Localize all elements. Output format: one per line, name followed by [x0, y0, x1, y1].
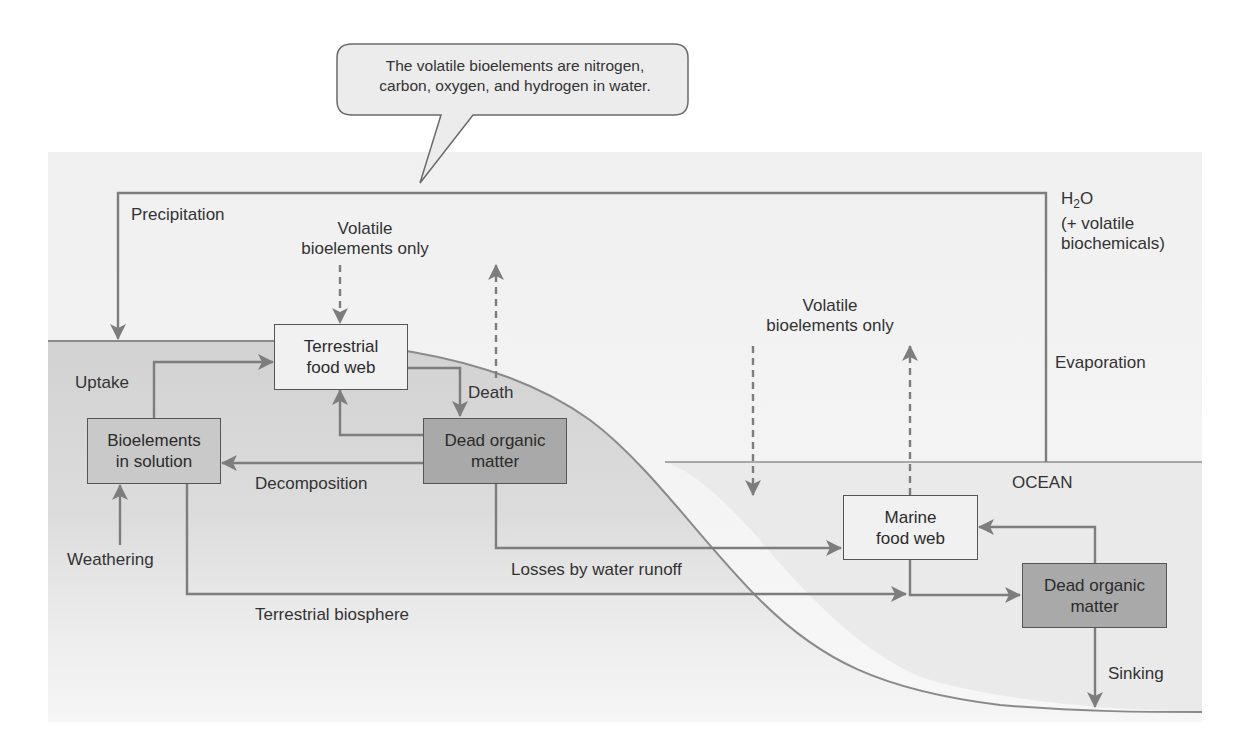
volatile-land-label: Volatile bioelements only	[280, 219, 450, 259]
dead-organic-ocean-line-2: matter	[1044, 596, 1145, 617]
precipitation-label: Precipitation	[131, 205, 225, 225]
weathering-label: Weathering	[67, 550, 154, 570]
death-label: Death	[468, 383, 513, 403]
h2o-line-2: (+ volatile	[1061, 214, 1165, 234]
h2o-formula: H2O	[1061, 189, 1165, 214]
callout-line-2: carbon, oxygen, and hydrogen in water.	[350, 76, 680, 96]
h2o-line-3: biochemicals)	[1061, 234, 1165, 254]
callout-text: The volatile bioelements are nitrogen, c…	[350, 56, 680, 96]
losses-runoff-label: Losses by water runoff	[511, 560, 682, 580]
terrestrial-food-web-line-2: food web	[304, 357, 379, 378]
terrestrial-food-web-line-1: Terrestrial	[304, 336, 379, 357]
ocean-label: OCEAN	[1012, 473, 1072, 493]
terrestrial-biosphere-label: Terrestrial biosphere	[255, 605, 409, 625]
volatile-ocean-label: Volatile bioelements only	[745, 296, 915, 336]
dead-organic-ocean-line-1: Dead organic	[1044, 575, 1145, 596]
evaporation-label: Evaporation	[1055, 353, 1146, 373]
volatile-land-line-2: bioelements only	[280, 239, 450, 259]
marine-food-web-box: Marine food web	[843, 495, 978, 560]
h2o-subscript: 2	[1073, 197, 1080, 211]
h2o-label: H2O (+ volatile biochemicals)	[1061, 189, 1165, 254]
decomposition-label: Decomposition	[255, 474, 367, 494]
uptake-label: Uptake	[75, 373, 129, 393]
h2o-h: H	[1061, 189, 1073, 208]
volatile-land-line-1: Volatile	[280, 219, 450, 239]
h2o-o: O	[1080, 189, 1093, 208]
bioelements-line-1: Bioelements	[107, 430, 201, 451]
dead-organic-land-line-1: Dead organic	[444, 430, 545, 451]
dead-organic-matter-ocean-box: Dead organic matter	[1022, 563, 1167, 628]
marine-food-web-line-2: food web	[876, 528, 945, 549]
volatile-ocean-line-1: Volatile	[745, 296, 915, 316]
terrestrial-food-web-box: Terrestrial food web	[274, 324, 408, 390]
bioelements-line-2: in solution	[107, 451, 201, 472]
dead-organic-matter-land-box: Dead organic matter	[423, 418, 567, 484]
callout-line-1: The volatile bioelements are nitrogen,	[350, 56, 680, 76]
volatile-ocean-line-2: bioelements only	[745, 316, 915, 336]
marine-food-web-line-1: Marine	[876, 507, 945, 528]
dead-organic-land-line-2: matter	[444, 451, 545, 472]
sinking-label: Sinking	[1108, 664, 1164, 684]
bioelements-in-solution-box: Bioelements in solution	[87, 418, 221, 484]
